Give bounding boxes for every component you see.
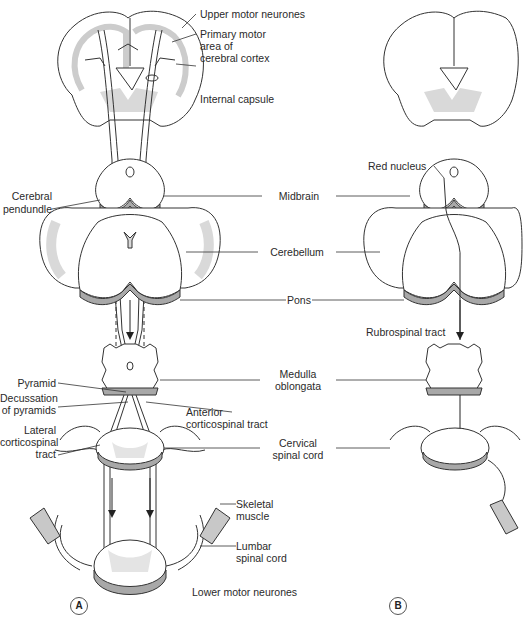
label-internal-capsule: Internal capsule [200, 93, 274, 105]
label-lumbar-spinal-cord-line2: spinal cord [236, 552, 287, 564]
label-primary-motor-area-line3: cerebral cortex [200, 52, 269, 64]
label-lateral-corticospinal-line3: tract [0, 448, 56, 460]
label-midbrain: Midbrain [262, 190, 336, 202]
cerebellum-pons-a [40, 208, 220, 305]
lumbar-cord-a [30, 508, 230, 595]
medulla-a [102, 344, 158, 395]
label-lumbar-spinal-cord-line1: Lumbar [236, 540, 272, 552]
label-medulla-line2: oblongata [260, 380, 336, 392]
label-medulla-line1: Medulla [260, 368, 336, 380]
label-red-nucleus: Red nucleus [368, 160, 426, 172]
panel-b-brain [384, 11, 519, 126]
label-decussation-line1: Decussation [0, 392, 56, 404]
label-cerebellum: Cerebellum [258, 246, 336, 258]
cervical-cord-b [390, 426, 520, 534]
label-rubrospinal-tract: Rubrospinal tract [366, 326, 445, 338]
label-cerebral-peduncle-line1: Cerebral [0, 190, 52, 202]
medulla-b [426, 344, 482, 395]
label-primary-motor-area-line1: Primary motor [200, 28, 266, 40]
label-anterior-corticospinal-line1: Anterior [186, 406, 223, 418]
label-anterior-corticospinal-line2: corticospinal tract [186, 418, 268, 430]
panel-a-brain [58, 11, 204, 126]
label-cerebral-peduncle-line2: pendundle [0, 203, 52, 215]
panel-label-b: B [389, 597, 407, 615]
label-cervical-line1: Cervical [260, 437, 336, 449]
label-lateral-corticospinal-line2: corticospinal [0, 436, 56, 448]
label-skeletal-muscle-line2: muscle [236, 510, 269, 522]
label-lower-motor-neurones: Lower motor neurones [192, 586, 297, 598]
label-skeletal-muscle-line1: Skeletal [236, 498, 273, 510]
label-pons: Pons [286, 294, 312, 306]
cerebellum-pons-b [364, 208, 522, 305]
label-primary-motor-area-line2: area of [200, 40, 233, 52]
label-decussation-line2: of pyramids [0, 404, 56, 416]
label-lateral-corticospinal-line1: Lateral [0, 424, 56, 436]
label-cervical-line2: spinal cord [260, 449, 336, 461]
label-pyramid: Pyramid [0, 377, 56, 389]
label-upper-motor-neurones: Upper motor neurones [200, 8, 305, 20]
panel-label-a: A [70, 597, 88, 615]
